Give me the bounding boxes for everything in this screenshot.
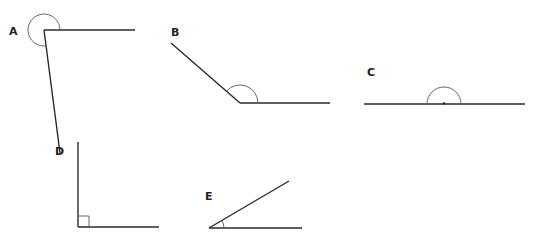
angle-c: C — [364, 66, 525, 105]
angle-a: A — [9, 14, 135, 153]
angle-a-arm-descending — [44, 30, 60, 153]
angle-b-arc — [226, 85, 258, 103]
label-b: B — [171, 26, 179, 39]
label-c: C — [367, 66, 375, 79]
angle-e-arm-diagonal — [209, 181, 289, 228]
angle-b-arm-diagonal — [171, 43, 240, 103]
angle-e-arc — [222, 220, 224, 228]
angle-d-right-angle-marker — [78, 216, 89, 227]
angle-d: D — [55, 142, 159, 227]
label-a: A — [9, 25, 18, 38]
label-e: E — [205, 190, 213, 203]
angle-b: B — [171, 26, 330, 103]
angle-c-arc — [427, 87, 461, 104]
angle-c-vertex-dot — [443, 102, 446, 105]
angle-e: E — [205, 181, 302, 228]
label-d: D — [55, 145, 64, 158]
angle-diagram: A B C D E — [0, 0, 536, 243]
